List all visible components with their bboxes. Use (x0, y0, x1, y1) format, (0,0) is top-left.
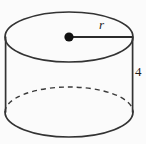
cylinder-figure: r 4 (0, 0, 146, 144)
center-point-dot-icon (64, 32, 73, 41)
cylinder-drawing (0, 0, 146, 144)
radius-label: r (99, 18, 104, 31)
bottom-front-arc-icon (5, 112, 133, 137)
height-label: 4 (135, 65, 142, 78)
bottom-back-arc-dashed-icon (5, 87, 133, 112)
